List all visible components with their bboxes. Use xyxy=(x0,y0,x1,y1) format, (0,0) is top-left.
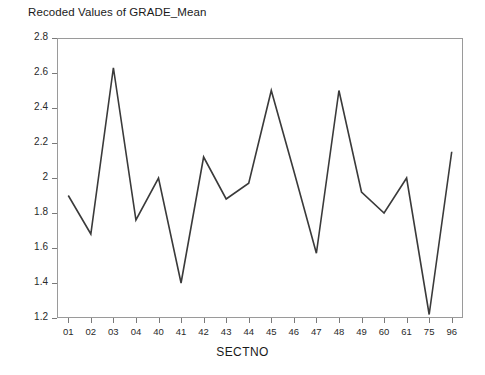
y-axis-tick-label: 1.6 xyxy=(12,241,48,252)
x-axis-tick-mark xyxy=(159,318,160,323)
x-axis-tick-mark xyxy=(316,318,317,323)
x-axis-tick-mark xyxy=(91,318,92,323)
y-axis-tick-mark xyxy=(52,318,57,319)
x-axis-tick-mark xyxy=(181,318,182,323)
x-axis-tick-mark xyxy=(113,318,114,323)
x-axis-tick-mark xyxy=(68,318,69,323)
grade-mean-line xyxy=(68,68,451,315)
y-axis-tick-label: 2.2 xyxy=(12,136,48,147)
data-series-line xyxy=(57,38,463,318)
x-axis-tick-mark xyxy=(271,318,272,323)
x-axis-tick-mark xyxy=(204,318,205,323)
x-axis-tick-mark xyxy=(452,318,453,323)
x-axis-title: SECTNO xyxy=(0,345,485,359)
chart-title: Recoded Values of GRADE_Mean xyxy=(28,6,206,18)
chart-container: Recoded Values of GRADE_Mean 1.21.41.61.… xyxy=(0,0,485,375)
y-axis-tick-label: 1.4 xyxy=(12,276,48,287)
x-axis-tick-mark xyxy=(429,318,430,323)
x-axis-tick-mark xyxy=(136,318,137,323)
x-axis-tick-mark xyxy=(226,318,227,323)
y-axis-tick-label: 2 xyxy=(12,171,48,182)
x-axis-tick-label: 96 xyxy=(438,326,466,337)
y-axis-tick-label: 2.6 xyxy=(12,66,48,77)
x-axis-tick-mark xyxy=(384,318,385,323)
x-axis-tick-mark xyxy=(339,318,340,323)
x-axis-tick-mark xyxy=(407,318,408,323)
y-axis-tick-label: 2.4 xyxy=(12,101,48,112)
x-axis-tick-mark xyxy=(362,318,363,323)
y-axis-tick-label: 2.8 xyxy=(12,31,48,42)
y-axis-tick-label: 1.8 xyxy=(12,206,48,217)
x-axis-tick-mark xyxy=(294,318,295,323)
x-axis-tick-mark xyxy=(249,318,250,323)
y-axis-tick-label: 1.2 xyxy=(12,311,48,322)
